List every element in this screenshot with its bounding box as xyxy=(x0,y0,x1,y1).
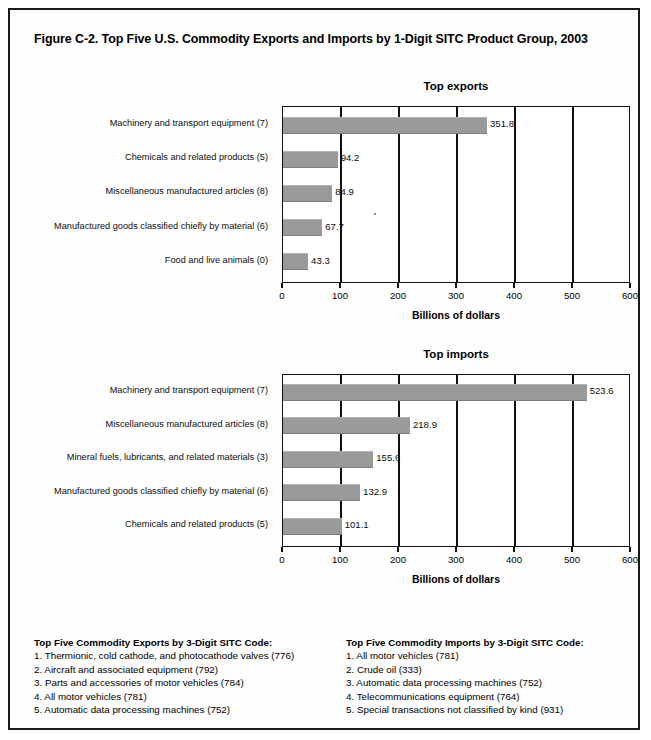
chart-title-exports: Top exports xyxy=(282,80,630,92)
tick-mark-200 xyxy=(397,283,398,288)
tick-mark-400 xyxy=(513,283,514,288)
category-label: Machinery and transport equipment (7) xyxy=(26,118,268,128)
value-label: 101.1 xyxy=(345,519,369,530)
scan-speck xyxy=(374,213,376,215)
value-label: 132.9 xyxy=(363,486,387,497)
footnote-imports-item: 2. Crude oil (333) xyxy=(346,663,634,677)
tick-mark-200 xyxy=(397,547,398,552)
gridline-300 xyxy=(456,375,457,546)
x-axis-title-exports: Billions of dollars xyxy=(282,309,630,321)
plot-area-exports xyxy=(282,106,630,283)
bar xyxy=(283,384,587,401)
category-label: Manufactured goods classified chiefly by… xyxy=(26,486,268,496)
tick-mark-0 xyxy=(281,547,282,552)
footnote-exports-item: 3. Parts and accessories of motor vehicl… xyxy=(34,676,322,690)
footnote-imports-item: 3. Automatic data processing machines (7… xyxy=(346,676,634,690)
x-tick-label: 200 xyxy=(378,290,418,301)
category-label: Food and live animals (0) xyxy=(26,255,268,265)
value-label: 218.9 xyxy=(413,419,437,430)
tick-mark-0 xyxy=(281,283,282,288)
category-label: Mineral fuels, lubricants, and related m… xyxy=(26,452,268,462)
tick-mark-100 xyxy=(339,547,340,552)
tick-mark-600 xyxy=(629,547,630,552)
footnote-exports-heading: Top Five Commodity Exports by 3-Digit SI… xyxy=(34,637,322,648)
page-title: Figure C-2. Top Five U.S. Commodity Expo… xyxy=(34,32,588,46)
footnote-exports-item: 4. All motor vehicles (781) xyxy=(34,690,322,704)
bar xyxy=(283,185,332,202)
x-tick-label: 300 xyxy=(436,554,476,565)
bar xyxy=(283,219,322,236)
footnote-exports-item: 5. Automatic data processing machines (7… xyxy=(34,703,322,717)
x-tick-label: 300 xyxy=(436,290,476,301)
bar xyxy=(283,253,308,270)
footnote-imports-item: 4. Telecommunications equipment (764) xyxy=(346,690,634,704)
category-label: Miscellaneous manufactured articles (8) xyxy=(26,419,268,429)
tick-mark-300 xyxy=(455,547,456,552)
value-label: 155.6 xyxy=(376,452,400,463)
gridline-500 xyxy=(572,375,573,546)
x-tick-label: 500 xyxy=(552,554,592,565)
x-tick-label: 400 xyxy=(494,290,534,301)
category-label: Miscellaneous manufactured articles (8) xyxy=(26,186,268,196)
footnote-imports-heading: Top Five Commodity Imports by 3-Digit SI… xyxy=(346,637,634,648)
chart-title-imports: Top imports xyxy=(282,348,630,360)
category-label: Manufactured goods classified chiefly by… xyxy=(26,221,268,231)
bar xyxy=(283,484,360,501)
tick-mark-500 xyxy=(571,283,572,288)
x-tick-label: 200 xyxy=(378,554,418,565)
tick-mark-300 xyxy=(455,283,456,288)
x-tick-label: 100 xyxy=(320,290,360,301)
bar xyxy=(283,417,410,434)
x-axis-title-imports: Billions of dollars xyxy=(282,573,630,585)
bar xyxy=(283,151,338,168)
bar xyxy=(283,117,487,134)
x-tick-label: 0 xyxy=(262,554,302,565)
category-label: Chemicals and related products (5) xyxy=(26,519,268,529)
category-label: Machinery and transport equipment (7) xyxy=(26,385,268,395)
x-tick-label: 500 xyxy=(552,290,592,301)
footnote-imports-column: Top Five Commodity Imports by 3-Digit SI… xyxy=(346,637,634,717)
figure-border: Figure C-2. Top Five U.S. Commodity Expo… xyxy=(8,8,640,730)
bar xyxy=(283,451,373,468)
footnote-exports-column: Top Five Commodity Exports by 3-Digit SI… xyxy=(34,637,322,717)
x-tick-label: 0 xyxy=(262,290,302,301)
value-label: 351.8 xyxy=(490,118,514,129)
gridline-400 xyxy=(514,107,515,282)
gridline-400 xyxy=(514,375,515,546)
footnotes: Top Five Commodity Exports by 3-Digit SI… xyxy=(34,637,634,717)
tick-mark-600 xyxy=(629,283,630,288)
plot-area-imports xyxy=(282,374,630,547)
footnote-exports-item: 1. Thermionic, cold cathode, and photoca… xyxy=(34,649,322,663)
category-label: Chemicals and related products (5) xyxy=(26,152,268,162)
footnote-imports-item: 1. All motor vehicles (781) xyxy=(346,649,634,663)
value-label: 84.9 xyxy=(335,186,354,197)
x-tick-label: 100 xyxy=(320,554,360,565)
gridline-500 xyxy=(572,107,573,282)
value-label: 43.3 xyxy=(311,255,330,266)
x-tick-label: 400 xyxy=(494,554,534,565)
x-tick-label: 600 xyxy=(610,290,650,301)
x-tick-label: 600 xyxy=(610,554,650,565)
footnote-exports-item: 2. Aircraft and associated equipment (79… xyxy=(34,663,322,677)
value-label: 67.7 xyxy=(325,221,344,232)
tick-mark-400 xyxy=(513,547,514,552)
value-label: 523.6 xyxy=(590,385,614,396)
footnote-imports-item: 5. Special transactions not classified b… xyxy=(346,703,634,717)
value-label: 94.2 xyxy=(341,152,360,163)
tick-mark-500 xyxy=(571,547,572,552)
tick-mark-100 xyxy=(339,283,340,288)
bar xyxy=(283,518,342,535)
